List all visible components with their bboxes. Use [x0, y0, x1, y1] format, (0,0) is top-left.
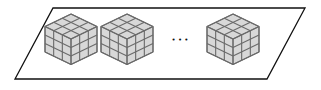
ellipsis: • • • — [172, 36, 189, 44]
cube-3 — [207, 14, 259, 64]
diagram-canvas: • • • — [0, 0, 321, 90]
plane-diagram: • • • — [0, 0, 321, 90]
cube-1 — [45, 14, 97, 64]
cube-row — [45, 14, 259, 64]
cube-2 — [101, 14, 153, 64]
